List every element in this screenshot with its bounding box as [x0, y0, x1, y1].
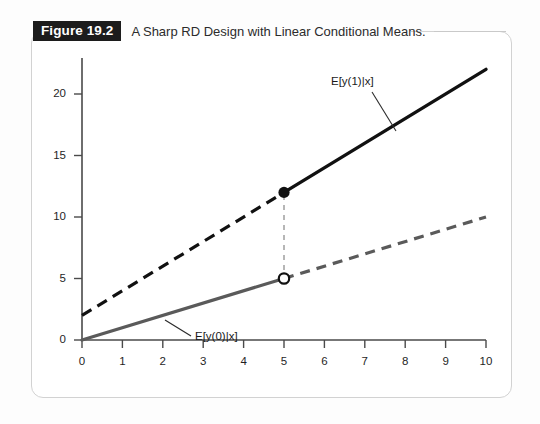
- x-tick-label-10: 10: [476, 356, 496, 368]
- y-tick-label-10: 10: [44, 211, 66, 223]
- y-tick-label-15: 15: [44, 150, 66, 162]
- x-tick-label-9: 9: [436, 356, 456, 368]
- series-label-control: E[y(0)|x]: [195, 331, 238, 343]
- x-tick-label-7: 7: [355, 356, 375, 368]
- x-tick-label-0: 0: [72, 356, 92, 368]
- x-tick-label-8: 8: [395, 356, 415, 368]
- figure-title: A Sharp RD Design with Linear Conditiona…: [131, 25, 425, 38]
- y-tick-label-0: 0: [44, 334, 66, 346]
- x-tick-label-4: 4: [234, 356, 254, 368]
- figure-frame: [31, 31, 512, 398]
- x-tick-label-2: 2: [153, 356, 173, 368]
- caption-rule: [434, 31, 506, 32]
- x-tick-label-3: 3: [193, 356, 213, 368]
- figure-root: Figure 19.2 A Sharp RD Design with Linea…: [0, 0, 540, 424]
- x-tick-label-1: 1: [112, 356, 132, 368]
- figure-caption: Figure 19.2 A Sharp RD Design with Linea…: [33, 20, 506, 42]
- y-tick-label-5: 5: [44, 273, 66, 285]
- y-tick-label-20: 20: [44, 88, 66, 100]
- series-label-treated: E[y(1)|x]: [331, 76, 374, 88]
- x-tick-label-5: 5: [274, 356, 294, 368]
- x-tick-label-6: 6: [314, 356, 334, 368]
- figure-number-badge: Figure 19.2: [33, 21, 121, 42]
